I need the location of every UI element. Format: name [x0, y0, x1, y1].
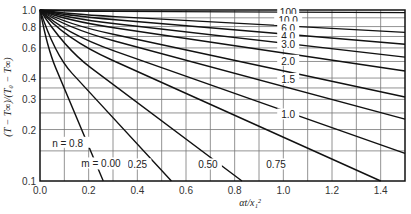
curve-label: 0.25	[128, 159, 148, 170]
curves	[40, 10, 405, 181]
x-tick-label: 1.4	[374, 185, 388, 196]
y-axis-label: (T − T∞)/(T₀ − T∞)	[2, 57, 14, 137]
x-tick-label: 1.0	[276, 185, 290, 196]
y-tick-label: 0.8	[22, 22, 36, 33]
curve-label: 3.0	[281, 39, 295, 50]
curve-label: 0.75	[266, 159, 286, 170]
x-tick-label: 0.4	[130, 185, 144, 196]
annotation: n = 0.8	[52, 138, 83, 149]
curve-label: 2.0	[281, 56, 295, 67]
x-axis-ticks: 0.00.20.40.60.81.01.21.4	[33, 185, 388, 196]
curve-label: 0.50	[198, 159, 218, 170]
curve-label: 1.5	[281, 74, 295, 85]
y-axis-ticks: 0.10.20.30.40.60.81.0	[22, 5, 36, 187]
x-tick-label: 1.2	[325, 185, 339, 196]
x-tick-label: 0.2	[82, 185, 96, 196]
y-tick-label: 0.3	[22, 94, 36, 105]
x-axis-label: αt/x₁²	[239, 197, 262, 208]
y-tick-label: 0.1	[22, 176, 36, 187]
y-tick-label: 0.2	[22, 125, 36, 136]
curve-m-1.0	[40, 10, 405, 153]
x-tick-label: 0.8	[228, 185, 242, 196]
y-tick-label: 0.4	[22, 73, 36, 84]
y-tick-label: 0.6	[22, 43, 36, 54]
annotations: n = 0.8m = 0.00	[50, 137, 128, 170]
annotation: m = 0.00	[81, 158, 121, 169]
x-tick-label: 0.6	[179, 185, 193, 196]
chart: 0.00.20.40.60.81.01.21.4 0.10.20.30.40.6…	[0, 0, 411, 214]
curve-label: 1.0	[281, 109, 295, 120]
curve-m-0.50	[40, 10, 242, 181]
curve-m-0.25	[40, 10, 171, 181]
curve-m-4.0	[40, 10, 405, 57]
y-tick-label: 1.0	[22, 5, 36, 16]
